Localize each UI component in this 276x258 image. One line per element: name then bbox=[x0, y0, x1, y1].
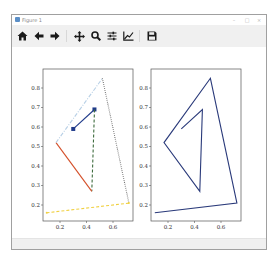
status-bar bbox=[12, 238, 266, 249]
y-tick-label: 0.2 bbox=[139, 202, 148, 208]
x-tick-label: 0.2 bbox=[164, 224, 173, 230]
x-tick-label: 0.4 bbox=[82, 224, 91, 230]
edit-axes-button[interactable] bbox=[121, 28, 135, 44]
app-icon bbox=[15, 17, 20, 22]
sliders-icon bbox=[107, 31, 117, 41]
x-tick-label: 0.6 bbox=[217, 224, 226, 230]
y-tick-label: 0.4 bbox=[31, 163, 40, 169]
floppy-disk-icon bbox=[147, 31, 157, 41]
y-tick-label: 0.6 bbox=[139, 124, 148, 130]
axes-frame bbox=[43, 69, 133, 221]
pan-button[interactable] bbox=[72, 28, 86, 44]
toolbar-separator bbox=[139, 30, 140, 42]
data-marker bbox=[71, 127, 75, 131]
x-tick-label: 0.4 bbox=[190, 224, 199, 230]
figure-canvas[interactable]: 0.20.30.40.50.60.70.80.20.40.60.20.30.40… bbox=[12, 47, 266, 240]
maximize-button[interactable]: □ bbox=[241, 16, 253, 24]
zoom-button[interactable] bbox=[89, 28, 103, 44]
title-bar[interactable]: Figure 1 – □ × bbox=[12, 15, 266, 25]
y-tick-label: 0.8 bbox=[31, 85, 40, 91]
x-tick-label: 0.6 bbox=[109, 224, 118, 230]
save-button[interactable] bbox=[145, 28, 159, 44]
data-marker bbox=[46, 212, 48, 214]
axes-frame bbox=[151, 69, 241, 221]
window-title: Figure 1 bbox=[22, 16, 42, 24]
magnifier-icon bbox=[91, 31, 101, 41]
y-tick-label: 0.3 bbox=[31, 182, 40, 188]
back-button[interactable] bbox=[32, 28, 46, 44]
plot-area[interactable]: 0.20.30.40.50.60.70.80.20.40.60.20.30.40… bbox=[12, 47, 268, 240]
y-tick-label: 0.7 bbox=[31, 104, 40, 110]
x-tick-label: 0.2 bbox=[56, 224, 65, 230]
data-marker bbox=[128, 202, 130, 204]
chart-line-icon bbox=[123, 31, 134, 41]
move-icon bbox=[74, 31, 85, 42]
subplots-button[interactable] bbox=[105, 28, 119, 44]
y-tick-label: 0.2 bbox=[31, 202, 40, 208]
forward-button[interactable] bbox=[48, 28, 62, 44]
y-tick-label: 0.7 bbox=[139, 104, 148, 110]
arrow-right-icon bbox=[50, 31, 60, 41]
home-button[interactable] bbox=[15, 28, 29, 44]
minimize-button[interactable]: – bbox=[228, 16, 240, 24]
toolbar-separator bbox=[66, 30, 67, 42]
arrow-left-icon bbox=[34, 31, 44, 41]
close-button[interactable]: × bbox=[253, 16, 265, 24]
figure-window: Figure 1 – □ × bbox=[11, 14, 267, 250]
y-tick-label: 0.5 bbox=[139, 143, 148, 149]
y-tick-label: 0.3 bbox=[139, 182, 148, 188]
y-tick-label: 0.8 bbox=[139, 85, 148, 91]
navigation-toolbar bbox=[12, 25, 266, 47]
y-tick-label: 0.5 bbox=[31, 143, 40, 149]
y-tick-label: 0.6 bbox=[31, 124, 40, 130]
home-icon bbox=[17, 31, 28, 41]
y-tick-label: 0.4 bbox=[139, 163, 148, 169]
